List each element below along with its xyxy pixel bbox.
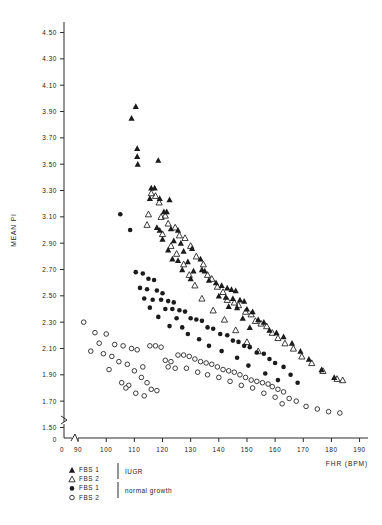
data-point	[173, 366, 178, 371]
x-tick-label: 170	[297, 446, 309, 453]
data-point	[200, 319, 205, 324]
data-point	[340, 377, 346, 383]
data-point	[166, 299, 171, 304]
data-point	[204, 361, 209, 366]
data-point	[315, 407, 320, 412]
data-point	[165, 220, 171, 226]
data-point	[239, 383, 244, 388]
data-point	[142, 394, 147, 399]
x-tick-label: 160	[269, 446, 281, 453]
data-point	[226, 303, 232, 309]
y-tick-label: 1.50	[42, 424, 57, 431]
data-point	[267, 357, 272, 362]
y-tick-label: 3.70	[42, 134, 57, 141]
x-tick-label: 100	[100, 446, 112, 453]
y-tick-label: 3.90	[42, 108, 57, 115]
data-point	[209, 362, 214, 367]
x-axis-break-icon	[71, 434, 78, 441]
data-point	[273, 395, 278, 400]
data-point	[281, 365, 286, 370]
data-point	[88, 349, 93, 354]
data-point	[192, 282, 198, 288]
scatter-plot: 1.501.701.902.102.302.502.702.903.103.30…	[0, 0, 382, 525]
data-point	[168, 243, 174, 249]
data-point	[138, 286, 143, 291]
data-point	[155, 157, 161, 163]
data-point	[155, 388, 160, 393]
data-point	[145, 380, 150, 385]
data-point	[182, 235, 188, 241]
data-point	[295, 380, 300, 385]
legend-label: FBS 1	[79, 466, 99, 473]
y-tick-label: 4.30	[42, 55, 57, 62]
data-point	[129, 346, 134, 351]
data-point	[93, 330, 98, 335]
data-point	[188, 316, 193, 321]
data-point	[150, 297, 155, 302]
data-point	[281, 390, 286, 395]
legend-marker-open-triangle	[69, 476, 75, 482]
data-point	[175, 257, 181, 263]
data-point	[198, 359, 203, 364]
data-point	[159, 345, 164, 350]
legend-marker-filled-triangle	[69, 467, 75, 473]
x-origin-label: 0	[60, 446, 64, 453]
y-tick-label: 2.90	[42, 240, 57, 247]
data-point	[146, 276, 151, 281]
data-point	[297, 348, 303, 354]
data-point	[247, 345, 252, 350]
data-point	[148, 190, 154, 196]
data-point	[107, 367, 112, 372]
data-point	[260, 380, 265, 385]
data-point	[117, 359, 122, 364]
data-point	[224, 285, 230, 291]
data-point	[135, 161, 141, 167]
data-point	[125, 362, 130, 367]
data-point	[156, 315, 161, 320]
data-point	[183, 309, 188, 314]
data-point	[273, 330, 279, 336]
data-point	[177, 308, 182, 313]
x-tick-label: 190	[353, 446, 365, 453]
data-point	[219, 349, 224, 354]
data-point	[170, 307, 175, 312]
data-point	[243, 375, 248, 380]
data-point	[255, 379, 260, 384]
data-point	[247, 324, 253, 330]
data-point	[132, 369, 137, 374]
data-point	[185, 258, 191, 264]
data-point	[273, 361, 278, 366]
data-point	[166, 197, 172, 203]
data-point	[141, 365, 146, 370]
data-point	[280, 401, 285, 406]
x-axis-title: FHR (BPM)	[326, 460, 368, 468]
data-point	[188, 243, 194, 249]
data-point	[338, 411, 343, 416]
data-point	[133, 391, 138, 396]
y-tick-label: 4.10	[42, 82, 57, 89]
legend-marker-filled-circle	[70, 486, 75, 491]
x-tick-label: 140	[213, 446, 225, 453]
data-point	[197, 337, 202, 342]
data-point	[216, 293, 222, 299]
legend-group-label-normal: normal growth	[125, 487, 172, 495]
data-point	[128, 228, 133, 233]
data-point	[167, 324, 172, 329]
y-tick-label: 3.30	[42, 187, 57, 194]
x-tick-label: 180	[325, 446, 337, 453]
y-tick-label: 2.30	[42, 319, 57, 326]
data-point	[195, 370, 200, 375]
chart-figure: 1.501.701.902.102.302.502.702.903.103.30…	[0, 0, 382, 525]
data-point	[160, 291, 165, 296]
x-tick-label: 130	[184, 446, 196, 453]
data-point	[280, 334, 286, 340]
data-point	[174, 316, 179, 321]
data-point	[276, 387, 281, 392]
data-point	[242, 344, 247, 349]
data-point	[181, 353, 186, 358]
data-point	[172, 224, 178, 230]
data-point	[233, 327, 239, 333]
data-point	[226, 369, 231, 374]
y-tick-label: 3.10	[42, 213, 57, 220]
data-point	[133, 103, 139, 109]
